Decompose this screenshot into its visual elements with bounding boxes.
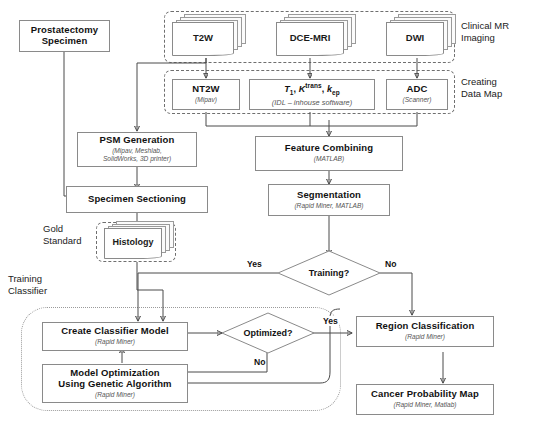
node-nt2w[interactable]: NT2W (Mipav) bbox=[172, 79, 240, 110]
params-title: T1, Ktrans, kep bbox=[284, 82, 340, 96]
model-optimization-sub: (Rapid Miner) bbox=[95, 391, 135, 399]
node-cancer-probability-map[interactable]: Cancer Probability Map (Rapid Miner, Mat… bbox=[356, 384, 494, 415]
node-segmentation[interactable]: Segmentation (Rapid Miner, MATLAB) bbox=[268, 184, 390, 216]
dwi-label: DWI bbox=[386, 22, 444, 52]
adc-sub: (Scanner) bbox=[403, 96, 432, 104]
decision-training[interactable]: Training? bbox=[278, 251, 380, 295]
t2w-label: T2W bbox=[172, 22, 234, 52]
region-label-gold-standard: Gold Standard bbox=[43, 223, 82, 247]
decision-optimized-label: Optimized? bbox=[222, 313, 314, 353]
params-sub: (IDL – inhouse software) bbox=[272, 98, 352, 107]
region-label-clinical-mr: Clinical MR Imaging bbox=[461, 20, 509, 44]
region-label-training-classifier: Training Classifier bbox=[8, 273, 47, 297]
decision-optimized[interactable]: Optimized? bbox=[222, 313, 314, 353]
cancer-map-title: Cancer Probability Map bbox=[371, 389, 479, 400]
nt2w-sub: (Mipav) bbox=[195, 96, 217, 104]
flowchart-diagram: Clinical MR Imaging Creating Data Map Go… bbox=[0, 0, 536, 439]
dce-mri-label: DCE-MRI bbox=[276, 22, 344, 52]
node-feature-combining[interactable]: Feature Combining (MATLAB) bbox=[255, 136, 403, 171]
psm-sub: (Mipav, Meshlab, SolidWorks, 3D printer) bbox=[103, 147, 171, 163]
prostatectomy-title: Prostatectomy Specimen bbox=[31, 25, 98, 47]
specimen-sectioning-title: Specimen Sectioning bbox=[88, 194, 186, 205]
region-label-creating-data-map: Creating Data Map bbox=[461, 76, 502, 100]
nt2w-title: NT2W bbox=[192, 84, 219, 95]
adc-title: ADC bbox=[407, 84, 428, 95]
node-region-classification[interactable]: Region Classification (Rapid Miner) bbox=[356, 316, 494, 347]
cancer-map-sub: (Rapid Miner, Matlab) bbox=[393, 401, 456, 409]
region-classification-title: Region Classification bbox=[376, 321, 475, 332]
node-specimen-sectioning[interactable]: Specimen Sectioning bbox=[66, 186, 208, 213]
node-model-optimization[interactable]: Model Optimization Using Genetic Algorit… bbox=[42, 364, 188, 403]
segmentation-title: Segmentation bbox=[297, 190, 361, 201]
feature-combining-title: Feature Combining bbox=[285, 143, 373, 154]
create-model-title: Create Classifier Model bbox=[61, 326, 168, 337]
node-prostatectomy-specimen[interactable]: Prostatectomy Specimen bbox=[19, 20, 110, 52]
histology-label: Histology bbox=[104, 228, 162, 255]
node-create-classifier-model[interactable]: Create Classifier Model (Rapid Miner) bbox=[42, 322, 188, 351]
decision-training-label: Training? bbox=[278, 251, 380, 295]
psm-title: PSM Generation bbox=[100, 135, 175, 146]
edge-label-training-no: No bbox=[384, 259, 397, 269]
edge-label-optimized-yes: Yes bbox=[322, 316, 339, 326]
node-params[interactable]: T1, Ktrans, kep (IDL – inhouse software) bbox=[249, 79, 375, 110]
node-psm-generation[interactable]: PSM Generation (Mipav, Meshlab, SolidWor… bbox=[77, 132, 197, 167]
edge-label-training-yes: Yes bbox=[246, 259, 263, 269]
region-classification-sub: (Rapid Miner) bbox=[405, 333, 445, 341]
model-optimization-title: Model Optimization Using Genetic Algorit… bbox=[58, 368, 171, 390]
node-adc[interactable]: ADC (Scanner) bbox=[386, 79, 448, 110]
feature-combining-sub: (MATLAB) bbox=[314, 155, 344, 163]
create-model-sub: (Rapid Miner) bbox=[95, 338, 135, 346]
edge-label-optimized-no: No bbox=[253, 357, 266, 367]
segmentation-sub: (Rapid Miner, MATLAB) bbox=[294, 202, 363, 210]
